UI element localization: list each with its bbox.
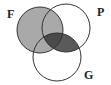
set-p-label: P <box>97 5 104 19</box>
venn-diagram: F P G <box>0 0 111 85</box>
set-g-label: G <box>84 68 93 82</box>
set-f-label: F <box>7 7 14 21</box>
